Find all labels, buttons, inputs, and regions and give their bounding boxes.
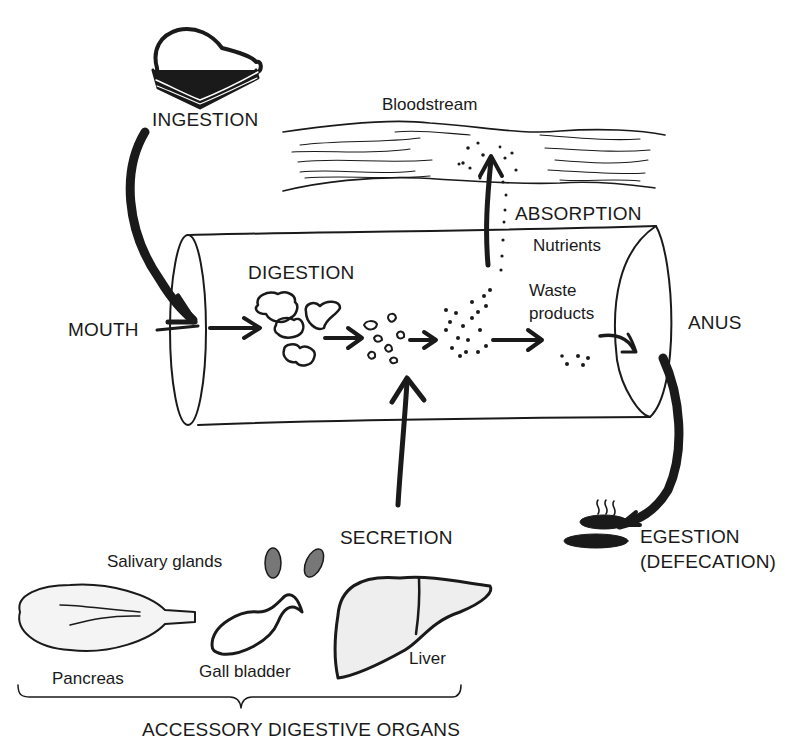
accessory-organs-label: ACCESSORY DIGESTIVE ORGANS (142, 720, 460, 739)
feces-icon (564, 500, 628, 548)
pancreas-icon (19, 585, 195, 651)
waste-label-line1: Waste (529, 282, 577, 299)
digestion-label: DIGESTION (248, 263, 354, 282)
ingestion-label: INGESTION (152, 110, 258, 129)
large-food-chunks (256, 292, 340, 365)
anus-label: ANUS (688, 313, 742, 332)
nutrients-label: Nutrients (533, 237, 601, 254)
absorption-arrow (480, 156, 502, 265)
defecation-label: (DEFECATION) (640, 552, 776, 571)
sandwich-icon (153, 29, 261, 108)
gall-bladder-label: Gall bladder (199, 663, 291, 680)
bloodstream-vessel (283, 121, 665, 191)
waste-particles (560, 354, 590, 367)
salivary-glands-icon (265, 546, 328, 580)
liver-label: Liver (409, 650, 446, 667)
nutrient-particles (444, 288, 492, 358)
absorption-label: ABSORPTION (515, 204, 642, 223)
pancreas-label: Pancreas (52, 670, 124, 687)
digestion-flow-arrows (210, 318, 636, 352)
medium-food-chunks (364, 314, 404, 363)
mouth-label: MOUTH (68, 320, 139, 339)
ingestion-arrow (130, 132, 195, 322)
gall-bladder-icon (212, 595, 302, 654)
egestion-label: EGESTION (640, 527, 740, 546)
secretion-label: SECRETION (340, 528, 453, 547)
waste-label-line2: products (529, 305, 594, 322)
accessory-organs-brace (18, 685, 461, 708)
secretion-arrow (392, 378, 424, 505)
egestion-arrow (620, 358, 679, 525)
bloodstream-label: Bloodstream (382, 96, 477, 113)
salivary-glands-label: Salivary glands (107, 553, 222, 570)
